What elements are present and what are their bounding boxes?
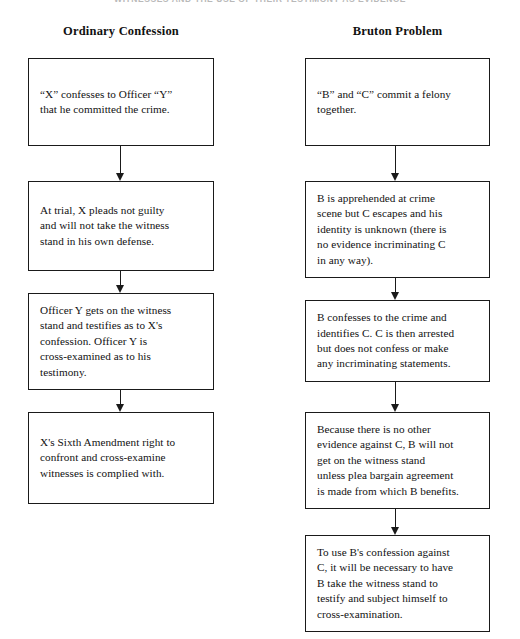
flow-box-right-2: B is apprehended at crime scene but C es…	[305, 181, 490, 278]
flow-box-left-3: Officer Y gets on the witness stand and …	[28, 293, 214, 390]
flow-box-right-4: Because there is no other evidence again…	[305, 412, 490, 509]
column-title-bruton-problem: Bruton Problem	[305, 24, 490, 38]
flow-box-right-3-text: B confesses to the crime and identifies …	[306, 310, 465, 372]
flow-box-left-4-text: X's Sixth Amendment right to confront an…	[29, 435, 186, 481]
flow-box-left-1: “X” confesses to Officer “Y” that he com…	[28, 58, 214, 146]
arrow-left-1-to-2	[115, 146, 126, 181]
arrow-left-2-to-3	[115, 271, 126, 293]
flow-box-left-3-text: Officer Y gets on the witness stand and …	[29, 303, 182, 380]
arrow-right-4-to-5	[390, 509, 401, 535]
flow-box-right-4-text: Because there is no other evidence again…	[306, 422, 470, 499]
arrow-right-1-to-2	[390, 146, 401, 181]
flow-box-left-2: At trial, X pleads not guilty and will n…	[28, 181, 214, 271]
flow-box-right-5-text: To use B's confession against C, it will…	[306, 545, 464, 622]
column-title-ordinary-confession: Ordinary Confession	[28, 24, 214, 38]
running-head: WITNESSES AND THE USE OF THEIR TESTIMONY…	[0, 0, 520, 3]
flow-box-right-1-text: “B” and “C” commit a felony together.	[306, 87, 462, 118]
flow-box-left-1-text: “X” confesses to Officer “Y” that he com…	[29, 87, 183, 118]
flow-box-right-3: B confesses to the crime and identifies …	[305, 300, 490, 382]
flow-box-right-2-text: B is apprehended at crime scene but C es…	[306, 191, 457, 268]
arrow-left-3-to-4	[115, 390, 126, 412]
flow-box-left-4: X's Sixth Amendment right to confront an…	[28, 412, 214, 504]
flow-box-right-5: To use B's confession against C, it will…	[305, 535, 490, 632]
arrow-right-2-to-3	[390, 278, 401, 300]
arrow-right-3-to-4	[390, 382, 401, 412]
flow-box-left-2-text: At trial, X pleads not guilty and will n…	[29, 203, 180, 249]
flow-box-right-1: “B” and “C” commit a felony together.	[305, 58, 490, 146]
